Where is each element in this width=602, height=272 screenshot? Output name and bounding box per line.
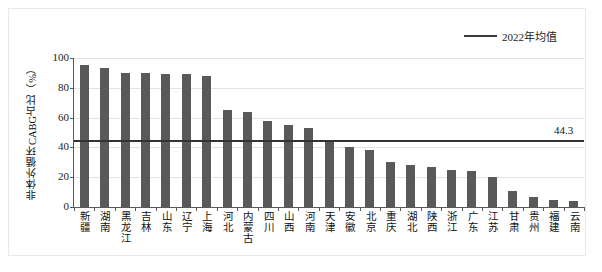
x-label-cell: 山东	[155, 211, 175, 244]
bar-cell	[237, 58, 257, 207]
legend-label-mean: 2022年均值	[502, 28, 557, 44]
x-axis-category-label: 甘肃	[506, 211, 517, 244]
x-label-cell: 上海	[195, 211, 215, 244]
bar[interactable]	[263, 121, 272, 207]
x-axis-category-label: 内蒙古	[241, 211, 252, 244]
x-axis-category-label: 重庆	[384, 211, 395, 244]
x-label-cell: 四川	[257, 211, 277, 244]
y-axis-tick-label: 0	[45, 201, 69, 212]
x-label-cell: 浙江	[440, 211, 460, 244]
x-label-cell: 河北	[216, 211, 236, 244]
bar-cell	[258, 58, 278, 207]
y-axis-tick-label: 60	[45, 112, 69, 123]
x-label-cell: 湖北	[400, 211, 420, 244]
y-axis-tick-label: 40	[45, 141, 69, 152]
bar[interactable]	[386, 162, 395, 207]
y-axis-title: 非体外循环CABG占比（%）	[23, 51, 41, 213]
x-axis-category-label: 北京	[364, 211, 375, 244]
bar-cell	[319, 58, 339, 207]
bar[interactable]	[100, 68, 109, 207]
x-axis-category-label: 贵州	[527, 211, 538, 244]
x-axis-category-label: 陕西	[425, 211, 436, 244]
x-label-cell: 辽宁	[175, 211, 195, 244]
x-label-cell: 广东	[461, 211, 481, 244]
x-label-cell: 山西	[277, 211, 297, 244]
x-axis-tick-mark	[584, 207, 585, 211]
bar[interactable]	[406, 165, 415, 207]
bar[interactable]	[529, 197, 538, 207]
chart-legend: 2022年均值	[464, 28, 557, 44]
x-label-cell: 福建	[542, 211, 562, 244]
x-label-cell: 吉林	[134, 211, 154, 244]
bar[interactable]	[488, 177, 497, 207]
x-label-cell: 重庆	[379, 211, 399, 244]
mean-reference-line	[74, 140, 584, 142]
bar[interactable]	[467, 171, 476, 207]
bar[interactable]	[325, 140, 334, 207]
bar-cell	[523, 58, 543, 207]
x-label-cell: 北京	[359, 211, 379, 244]
x-axis-category-label: 云南	[568, 211, 579, 244]
bar[interactable]	[284, 125, 293, 207]
bar-cell	[156, 58, 176, 207]
x-axis-category-labels: 新疆湖南黑龙江吉林山东辽宁上海河北内蒙古四川山西河南天津安徽北京重庆湖北陕西浙江…	[73, 211, 583, 244]
bar-cell	[462, 58, 482, 207]
x-label-cell: 内蒙古	[236, 211, 256, 244]
mean-value-label: 44.3	[554, 124, 573, 136]
bar-cell	[74, 58, 94, 207]
x-axis-category-label: 吉林	[139, 211, 150, 244]
x-axis-category-label: 新疆	[78, 211, 89, 244]
bar[interactable]	[549, 200, 558, 207]
bar[interactable]	[345, 147, 354, 207]
x-axis-category-label: 山东	[159, 211, 170, 244]
x-label-cell: 甘肃	[502, 211, 522, 244]
x-axis-category-label: 广东	[466, 211, 477, 244]
y-axis-tick-labels: 020406080100	[41, 58, 69, 207]
bar-cell	[401, 58, 421, 207]
bar[interactable]	[80, 65, 89, 207]
x-axis-category-label: 辽宁	[180, 211, 191, 244]
x-axis-category-label: 四川	[262, 211, 273, 244]
x-axis-category-label: 湖北	[404, 211, 415, 244]
x-label-cell: 安徽	[338, 211, 358, 244]
bar-cell	[217, 58, 237, 207]
bar-cell	[339, 58, 359, 207]
x-axis-category-label: 天津	[323, 211, 334, 244]
bar-cell	[380, 58, 400, 207]
x-label-cell: 云南	[563, 211, 583, 244]
bar-cell	[135, 58, 155, 207]
x-axis-category-label: 山西	[282, 211, 293, 244]
plot-area	[73, 58, 584, 208]
x-label-cell: 河南	[297, 211, 317, 244]
bar[interactable]	[365, 150, 374, 207]
y-axis-tick-label: 80	[45, 82, 69, 93]
x-axis-category-label: 上海	[200, 211, 211, 244]
bar-cell	[278, 58, 298, 207]
x-axis-category-label: 安徽	[343, 211, 354, 244]
legend-line-marker	[464, 35, 497, 37]
bar-cell	[176, 58, 196, 207]
x-label-cell: 江苏	[481, 211, 501, 244]
x-axis-category-label: 黑龙江	[119, 211, 130, 244]
x-label-cell: 天津	[318, 211, 338, 244]
bar-cell	[360, 58, 380, 207]
bar-cell	[94, 58, 114, 207]
bar[interactable]	[508, 191, 517, 207]
x-label-cell: 湖南	[93, 211, 113, 244]
bar[interactable]	[243, 112, 252, 207]
bar-cell	[441, 58, 461, 207]
y-axis-tick-label: 100	[45, 52, 69, 63]
x-axis-category-label: 河南	[302, 211, 313, 244]
x-label-cell: 新疆	[73, 211, 93, 244]
bar[interactable]	[223, 110, 232, 207]
x-label-cell: 陕西	[420, 211, 440, 244]
x-label-cell: 黑龙江	[114, 211, 134, 244]
bar[interactable]	[569, 201, 578, 207]
x-axis-category-label: 湖南	[98, 211, 109, 244]
x-axis-category-label: 河北	[221, 211, 232, 244]
bar[interactable]	[427, 167, 436, 207]
x-axis-category-label: 浙江	[445, 211, 456, 244]
bar[interactable]	[447, 170, 456, 207]
x-axis-category-label: 福建	[547, 211, 558, 244]
x-axis-category-label: 江苏	[486, 211, 497, 244]
